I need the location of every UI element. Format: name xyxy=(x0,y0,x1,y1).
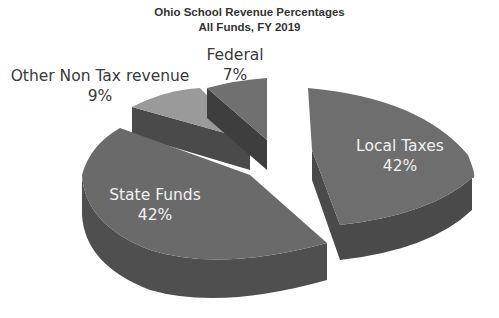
label-federal: Federal 7% xyxy=(195,45,275,85)
label-state-value: 42% xyxy=(100,205,210,225)
label-local-name: Local Taxes xyxy=(350,136,450,156)
label-other-non-tax: Other Non Tax revenue 9% xyxy=(10,66,190,106)
label-other-name: Other Non Tax revenue xyxy=(10,66,190,86)
label-state-funds: State Funds 42% xyxy=(100,185,210,225)
label-other-value: 9% xyxy=(10,86,190,106)
label-local-value: 42% xyxy=(350,156,450,176)
label-state-name: State Funds xyxy=(100,185,210,205)
label-federal-value: 7% xyxy=(195,65,275,85)
label-federal-name: Federal xyxy=(195,45,275,65)
label-local-taxes: Local Taxes 42% xyxy=(350,136,450,176)
